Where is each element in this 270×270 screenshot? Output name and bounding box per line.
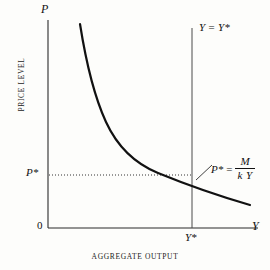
equation-equals-sign: = (226, 163, 232, 175)
x-tick-label-ystar: Y* (185, 232, 197, 243)
origin-label: 0 (37, 220, 43, 231)
y-axis-tip-label: P (41, 3, 48, 15)
x-axis-tip-label: Y (252, 220, 259, 232)
equation-leader-line (196, 165, 212, 180)
y-axis-caption: PRICE LEVEL (17, 45, 26, 125)
equation-annotation: P* = M k Y (211, 156, 255, 181)
equation-numerator: M (238, 156, 251, 168)
equation-lhs: P* (211, 163, 223, 175)
vertical-line-label: Y = Y* (199, 22, 230, 33)
economics-figure: P Y 0 P* Y* Y = Y* PRICE LEVEL AGGREGATE… (0, 0, 270, 270)
equation-denominator: k Y (235, 169, 254, 181)
x-axis-caption: AGGREGATE OUTPUT (0, 252, 270, 261)
equation-fraction: M k Y (235, 156, 254, 181)
y-tick-label-pstar: P* (26, 167, 38, 178)
